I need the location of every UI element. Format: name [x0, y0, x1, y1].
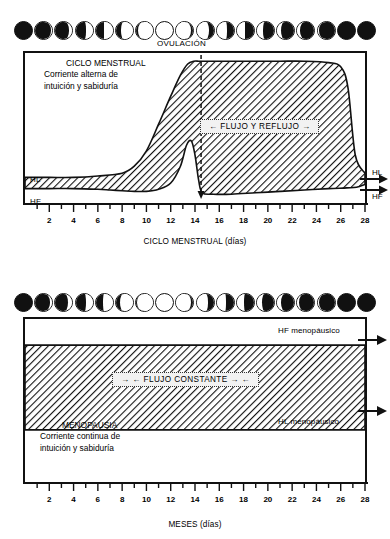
moon-phase-icon [357, 21, 376, 40]
moon-phase-icon [14, 293, 33, 312]
moon-phase-icon [337, 293, 356, 312]
moon-phase-icon [216, 293, 235, 312]
moon-phase-icon [135, 293, 154, 312]
caption-ciclo-menstrual: CICLO MENSTRUAL Corriente alterna de int… [44, 58, 146, 92]
moon-phase-icon [317, 293, 336, 312]
ovulacion-label: OVULACIÓN [157, 39, 206, 48]
moon-phase-icon [296, 293, 315, 312]
caption-title: MENOPAUSIA [40, 420, 120, 431]
moon-phase-icon [276, 21, 295, 40]
moon-phase-icon [236, 293, 255, 312]
moon-phase-icon [175, 293, 194, 312]
caption-line-2: intuición y sabiduría [44, 81, 146, 92]
area-band-menopausia [25, 319, 365, 482]
x-tick-labels-menopausia: 246810121416182022242628 [23, 495, 367, 507]
moon-phase-icon [95, 21, 114, 40]
x-tick-label: 14 [191, 216, 200, 225]
x-tick-label: 6 [96, 216, 100, 225]
caption-title: CICLO MENSTRUAL [44, 58, 146, 69]
x-tick-label: 20 [263, 495, 272, 504]
moon-phase-icon [196, 293, 215, 312]
x-tick-label: 22 [288, 216, 297, 225]
moon-phase-icon [54, 21, 73, 40]
moon-phase-icon [357, 293, 376, 312]
x-tick-label: 18 [239, 216, 248, 225]
moon-phase-icon [54, 293, 73, 312]
x-axis-ciclo-menstrual [23, 203, 369, 215]
plot-area-menopausia [23, 317, 367, 484]
moon-phase-icon [34, 21, 53, 40]
hf-arrow-right [358, 334, 388, 348]
hf-menopausico-label: HF menopáusico [278, 325, 340, 336]
x-tick-label: 26 [336, 216, 345, 225]
x-tick-label: 14 [191, 495, 200, 504]
moon-phase-icon [317, 21, 336, 40]
x-tick-label: 2 [47, 495, 51, 504]
x-tick-label: 18 [239, 495, 248, 504]
x-tick-label: 28 [361, 216, 370, 225]
x-tick-label: 10 [142, 495, 151, 504]
x-tick-label: 16 [215, 216, 224, 225]
x-tick-label: 28 [361, 495, 370, 504]
moon-phase-icon [175, 21, 194, 40]
caption-line-1: Corriente alterna de [44, 69, 146, 80]
moon-phase-icon [196, 21, 215, 40]
moon-phase-icon [95, 293, 114, 312]
x-tick-label: 2 [47, 216, 51, 225]
moon-phase-icon [115, 21, 134, 40]
x-tick-label: 6 [96, 495, 100, 504]
x-tick-label: 8 [120, 216, 124, 225]
moon-phase-icon [256, 21, 275, 40]
x-tick-labels-ciclo-menstrual: 246810121416182022242628 [23, 216, 367, 228]
x-tick-label: 24 [312, 495, 321, 504]
hl-arrow-right [358, 405, 388, 419]
moon-phases-menopause [14, 293, 376, 312]
moon-phase-icon [135, 21, 154, 40]
flujo-y-reflujo-tag: ← FLUJO Y REFLUJO → [200, 119, 319, 134]
caption-menopausia: MENOPAUSIA Corriente continua de intuici… [40, 420, 120, 454]
moon-phase-icon [236, 21, 255, 40]
moon-phases-menstrual [14, 21, 376, 40]
moon-phase-icon [155, 293, 174, 312]
moon-phase-icon [256, 293, 275, 312]
x-tick-label: 12 [166, 495, 175, 504]
chart-menopausia: HF menopáusico HL menopáusico → ← FLUJO … [0, 268, 390, 539]
flow-arrows-right [360, 174, 390, 200]
moon-phase-icon [296, 21, 315, 40]
moon-phase-icon [75, 293, 94, 312]
x-tick-label: 4 [71, 495, 75, 504]
caption-line-1: Corriente continua de [40, 431, 120, 442]
moon-phase-icon [34, 293, 53, 312]
x-tick-label: 8 [120, 495, 124, 504]
x-axis-menopausia [23, 482, 369, 494]
moon-phase-icon [276, 293, 295, 312]
x-tick-label: 12 [166, 216, 175, 225]
moon-phase-icon [75, 21, 94, 40]
x-axis-title-ciclo-menstrual: CICLO MENSTRUAL (días) [0, 237, 390, 246]
hl-label-left: HL [30, 174, 40, 185]
moon-phase-icon [155, 21, 174, 40]
x-tick-label: 10 [142, 216, 151, 225]
x-tick-label: 16 [215, 495, 224, 504]
x-tick-label: 20 [263, 216, 272, 225]
x-tick-label: 22 [288, 495, 297, 504]
caption-line-2: intuición y sabiduría [40, 443, 120, 454]
x-tick-label: 24 [312, 216, 321, 225]
moon-phase-icon [216, 21, 235, 40]
moon-phase-icon [337, 21, 356, 40]
hl-menopausico-label: HL menopáusico [278, 416, 339, 427]
x-axis-title-menopausia: MESES (días) [0, 520, 390, 529]
moon-phase-icon [14, 21, 33, 40]
chart-ciclo-menstrual: OVULACIÓN CICLO MENSTRUAL Corriente alte… [0, 0, 390, 268]
moon-phase-icon [115, 293, 134, 312]
x-tick-label: 26 [336, 495, 345, 504]
flujo-constante-tag: → ← FLUJO CONSTANTE → ← [112, 372, 259, 387]
x-tick-label: 4 [71, 216, 75, 225]
